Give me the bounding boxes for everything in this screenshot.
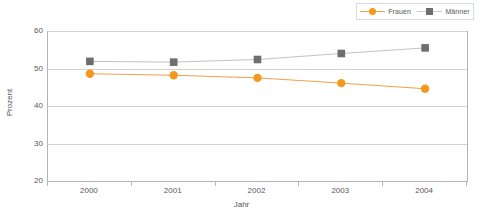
x-tick-label: 2002: [237, 186, 277, 195]
x-tick-mark: [131, 182, 132, 186]
line-chart: Frauen Männer Prozent 6050403020 2000200…: [0, 0, 483, 223]
x-axis-title: Jahr: [0, 200, 483, 209]
x-tick-label: 2004: [404, 186, 444, 195]
x-tick-mark: [298, 182, 299, 186]
x-tick-mark: [47, 182, 48, 186]
x-tick-mark: [466, 182, 467, 186]
x-tick-label: 2003: [320, 186, 360, 195]
x-axis-ticks: 20002001200220032004: [0, 0, 483, 223]
x-tick-label: 2000: [69, 186, 109, 195]
x-tick-mark: [382, 182, 383, 186]
x-tick-label: 2001: [153, 186, 193, 195]
x-tick-mark: [215, 182, 216, 186]
